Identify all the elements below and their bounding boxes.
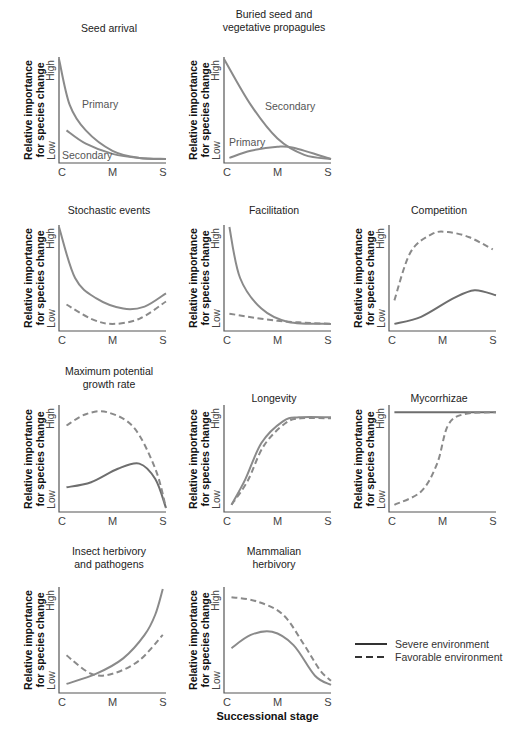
x-tick-m: M <box>108 696 117 708</box>
y-axis-label-line1: Relative importance <box>22 580 34 700</box>
y-axis-label-line1: Relative importance <box>22 218 34 338</box>
annotation-secondary: Secondary <box>265 100 315 112</box>
panel-title-line2: and pathogens <box>14 558 204 571</box>
y-tick-high: High <box>210 60 221 81</box>
x-tick-c: C <box>223 334 231 346</box>
x-tick-s: S <box>489 334 496 346</box>
y-tick-low: Low <box>376 490 387 508</box>
y-tick-low: Low <box>46 490 57 508</box>
x-tick-c: C <box>58 696 66 708</box>
favorable-curve <box>232 597 332 681</box>
panel-title-line2: vegetative propagules <box>179 21 369 34</box>
plot-area <box>58 224 169 334</box>
x-tick-m: M <box>273 696 282 708</box>
y-tick-high: High <box>375 228 386 249</box>
x-tick-s: S <box>159 334 166 346</box>
panel-title-line2: growth rate <box>14 378 204 391</box>
legend: Severe environment Favorable environment <box>355 637 502 663</box>
y-axis-label-line1: Relative importance <box>352 218 364 338</box>
annotation-primary: Primary <box>229 136 265 148</box>
panel-title: Facilitation <box>179 204 369 217</box>
x-tick-s: S <box>324 515 331 527</box>
axes <box>224 587 331 693</box>
x-tick-m: M <box>108 166 117 178</box>
legend-label-favorable: Favorable environment <box>395 651 502 663</box>
legend-item-severe: Severe environment <box>355 637 502 650</box>
severe-curve <box>394 290 496 324</box>
severe-curve <box>67 463 167 508</box>
axes <box>389 225 496 331</box>
dashed-line-icon <box>355 653 387 661</box>
x-tick-c: C <box>58 515 66 527</box>
y-tick-low: Low <box>376 309 387 327</box>
x-tick-s: S <box>324 334 331 346</box>
severe-curve <box>59 227 166 309</box>
favorable-curve <box>67 302 167 324</box>
panel-title-line2: herbivory <box>179 558 369 571</box>
x-tick-s: S <box>324 696 331 708</box>
x-tick-c: C <box>223 515 231 527</box>
x-tick-s: S <box>159 515 166 527</box>
y-tick-high: High <box>210 408 221 429</box>
y-tick-low: Low <box>211 671 222 689</box>
solid-line-icon <box>355 640 387 648</box>
panel-title-line1: Buried seed and <box>179 8 369 21</box>
plot-area <box>58 404 169 515</box>
x-tick-s: S <box>159 166 166 178</box>
annotation-secondary: Secondary <box>62 149 112 161</box>
axes <box>59 405 166 512</box>
y-tick-high: High <box>45 408 56 429</box>
y-tick-low: Low <box>46 671 57 689</box>
x-tick-s: S <box>324 166 331 178</box>
y-axis-label-line1: Relative importance <box>187 218 199 338</box>
axes <box>224 405 331 512</box>
x-tick-s: S <box>159 696 166 708</box>
panel-title-line1: Stochastic events <box>14 204 204 217</box>
y-tick-low: Low <box>46 141 57 159</box>
y-tick-high: High <box>45 60 56 81</box>
x-tick-m: M <box>438 334 447 346</box>
favorable-curve <box>67 635 163 676</box>
severe-curve <box>229 227 331 324</box>
x-tick-m: M <box>438 515 447 527</box>
y-axis-label-line1: Relative importance <box>187 580 199 700</box>
severe-curve <box>232 631 332 685</box>
x-tick-m: M <box>108 515 117 527</box>
y-tick-low: Low <box>211 309 222 327</box>
favorable-curve <box>394 412 496 505</box>
panel-title-line1: Facilitation <box>179 204 369 217</box>
y-axis-label-line1: Relative importance <box>187 50 199 170</box>
severe-curve <box>232 417 332 505</box>
x-tick-c: C <box>223 166 231 178</box>
plot-area <box>388 404 499 515</box>
panel-title-line1: Maximum potential <box>14 365 204 378</box>
axes <box>59 57 166 163</box>
x-tick-c: C <box>58 166 66 178</box>
y-tick-high: High <box>210 590 221 611</box>
plot-area <box>58 586 169 696</box>
x-tick-c: C <box>58 334 66 346</box>
x-tick-m: M <box>273 334 282 346</box>
panel-title-line1: Mammalian <box>179 545 369 558</box>
plot-area <box>223 404 334 515</box>
panel-title-line1: Seed arrival <box>14 22 204 35</box>
x-tick-m: M <box>273 166 282 178</box>
panel-title: Insect herbivoryand pathogens <box>14 545 204 571</box>
axes <box>389 405 496 512</box>
panel-title: Buried seed andvegetative propagules <box>179 8 369 34</box>
y-axis-label-line1: Relative importance <box>352 399 364 519</box>
plot-area <box>388 224 499 334</box>
panel-title: Competition <box>344 204 519 217</box>
y-tick-high: High <box>210 228 221 249</box>
axes <box>59 587 166 693</box>
plot-area <box>223 586 334 696</box>
legend-item-favorable: Favorable environment <box>355 650 502 663</box>
y-axis-label-line1: Relative importance <box>22 399 34 519</box>
x-tick-m: M <box>108 334 117 346</box>
x-tick-c: C <box>388 334 396 346</box>
x-tick-c: C <box>388 515 396 527</box>
severe-curve <box>67 589 163 684</box>
panel-title: Maximum potentialgrowth rate <box>14 365 204 391</box>
favorable-curve <box>67 411 167 508</box>
y-tick-high: High <box>375 408 386 429</box>
